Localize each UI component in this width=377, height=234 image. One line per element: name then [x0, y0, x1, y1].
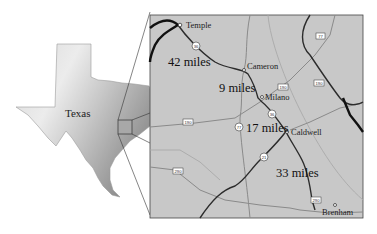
route-shield: 77: [235, 123, 243, 131]
city-label-caldwell: Caldwell: [291, 127, 322, 137]
selected-region-box: [118, 120, 132, 134]
route-shield: 190: [314, 80, 324, 86]
route-shield: 21: [260, 153, 268, 161]
city-marker: [243, 69, 246, 72]
svg-text:190: 190: [316, 81, 324, 86]
svg-text:77: 77: [237, 125, 242, 130]
route-shield: 190: [183, 119, 193, 125]
svg-text:36: 36: [194, 44, 199, 49]
route-shield: 290: [311, 197, 321, 203]
route-shield: 36: [192, 42, 200, 50]
distance-label: 17 miles: [246, 121, 289, 135]
city-label-brenham: Brenham: [322, 207, 354, 217]
city-label-milano: Milano: [265, 92, 290, 102]
svg-text:36: 36: [270, 112, 275, 117]
route-shield: 77: [316, 33, 325, 39]
state-label: Texas: [65, 107, 91, 119]
route-shield: 36: [268, 110, 276, 118]
distance-label: 9 miles: [219, 81, 256, 95]
svg-text:190: 190: [280, 85, 288, 90]
map-figure: Texas: [0, 0, 377, 234]
route-shield: 290: [173, 168, 183, 174]
route-shield: 190: [278, 84, 288, 90]
svg-text:190: 190: [185, 120, 193, 125]
inset-map: 36 77 190 190 190 36 77 21 290 290 Templ…: [150, 15, 363, 218]
city-label-cameron: Cameron: [247, 61, 279, 71]
city-marker: [178, 23, 182, 27]
texas-state-map: Texas: [16, 44, 153, 197]
svg-text:290: 290: [175, 169, 183, 174]
distance-label: 33 miles: [276, 166, 319, 180]
svg-text:77: 77: [318, 34, 323, 39]
distance-label: 42 miles: [168, 55, 211, 69]
city-label-temple: Temple: [186, 20, 212, 30]
svg-text:21: 21: [262, 155, 267, 160]
city-marker: [261, 96, 264, 99]
svg-text:290: 290: [313, 198, 321, 203]
